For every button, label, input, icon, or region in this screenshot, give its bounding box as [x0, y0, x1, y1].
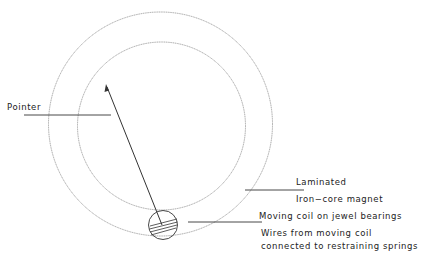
- label-moving-coil: Moving coil on jewel bearings: [259, 211, 402, 221]
- label-pointer: Pointer: [7, 102, 41, 112]
- label-magnet-line2: Iron−core magnet: [296, 194, 383, 204]
- label-wires-line1: Wires from moving coil: [261, 228, 372, 238]
- coil-windings: [150, 219, 178, 235]
- label-wires-line2: connected to restraining springs: [261, 241, 418, 251]
- outer-magnet-ring: [49, 12, 273, 236]
- label-magnet-line1: Laminated: [296, 177, 347, 187]
- inner-magnet-ring: [78, 42, 246, 210]
- pointer-needle: [107, 87, 162, 225]
